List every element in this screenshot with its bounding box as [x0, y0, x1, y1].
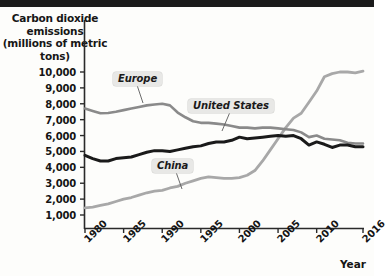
leader-line-europe [137, 85, 143, 103]
series-label-china: China [152, 159, 193, 173]
series-line-china [85, 71, 363, 208]
series-line-united-states [85, 136, 363, 161]
leader-line-united-states [222, 112, 230, 131]
series-paths [85, 71, 363, 208]
series-label-europe: Europe [113, 72, 162, 86]
x-axis-title: Year [340, 258, 366, 270]
series-label-united-states: United States [188, 99, 274, 113]
